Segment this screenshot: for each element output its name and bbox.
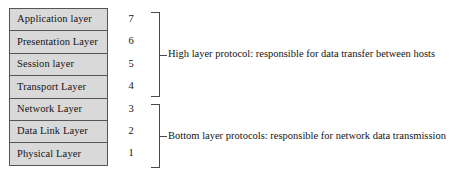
layer-box-data-link: Data Link Layer [10, 121, 107, 143]
layer-box-network: Network Layer [10, 99, 107, 121]
annotation-high-layers: High layer protocol: responsible for dat… [168, 49, 435, 60]
layer-number: 1 [120, 142, 142, 164]
layer-label: Session layer [17, 59, 74, 70]
layer-number-column: 7 6 5 4 3 2 1 [120, 8, 142, 165]
layer-number: 6 [120, 30, 142, 52]
group-bracket-high-layers [151, 12, 160, 97]
layer-label: Transport Layer [17, 82, 86, 93]
layer-box-application: Application layer [10, 9, 107, 31]
group-bracket-bottom-layers [151, 104, 160, 168]
layer-number: 2 [120, 120, 142, 142]
annotation-bottom-layers: Bottom layer protocols: responsible for … [168, 131, 446, 142]
layer-number: 5 [120, 53, 142, 75]
layer-number: 4 [120, 75, 142, 97]
layer-label: Physical Layer [17, 149, 81, 160]
layer-box-stack: Application layer Presentation Layer Ses… [9, 8, 108, 166]
osi-layer-diagram: Application layer Presentation Layer Ses… [0, 0, 462, 179]
layer-label: Network Layer [17, 104, 82, 115]
layer-number: 7 [120, 8, 142, 30]
layer-box-session: Session layer [10, 54, 107, 76]
bracket-tick-icon [160, 136, 167, 137]
layer-label: Presentation Layer [17, 37, 98, 48]
layer-box-physical: Physical Layer [10, 143, 107, 165]
layer-box-transport: Transport Layer [10, 76, 107, 98]
bracket-tick-icon [160, 55, 167, 56]
layer-number: 3 [120, 98, 142, 120]
layer-box-presentation: Presentation Layer [10, 31, 107, 53]
layer-label: Application layer [17, 14, 92, 25]
layer-label: Data Link Layer [17, 126, 88, 137]
